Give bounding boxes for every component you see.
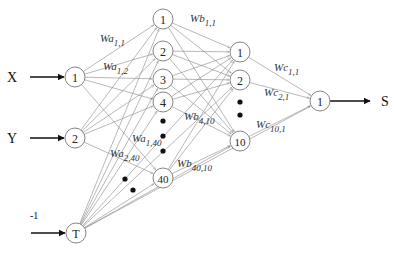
weight-label: Wa1,1 — [100, 32, 125, 48]
svg-text:1: 1 — [317, 95, 323, 109]
svg-text:1: 1 — [160, 13, 166, 27]
weight-edge — [171, 58, 230, 97]
weight-edge — [172, 23, 230, 48]
hidden-a-node: 1 — [153, 9, 173, 29]
output-signal-label: S — [381, 94, 389, 109]
weight-label: Wc2,1 — [264, 86, 289, 102]
weight-edge — [173, 79, 229, 80]
weight-label: Wa2,40 — [110, 147, 140, 163]
weight-label: Wb1,1 — [190, 12, 216, 28]
input-node: 2 — [65, 128, 85, 148]
weight-edge — [84, 184, 153, 228]
neural-network-diagram: XY-1S 12T12344012101 Wa1,1Wa1,2Wb1,1Wc1,… — [0, 0, 394, 259]
input-arrows: XY-1S — [7, 70, 389, 234]
hidden-b-node: 1 — [230, 42, 250, 62]
input-signal-label: X — [7, 70, 17, 85]
weight-edge — [85, 80, 153, 99]
input-signal-label: Y — [7, 131, 17, 146]
weight-edge — [85, 77, 152, 79]
weight-edge — [171, 25, 232, 73]
svg-text:3: 3 — [160, 73, 166, 87]
hidden-b-node: 10 — [230, 131, 250, 151]
svg-text:40: 40 — [158, 173, 170, 185]
hidden-a-node: 3 — [153, 69, 173, 89]
svg-text:1: 1 — [237, 46, 243, 60]
hidden-b-node: 2 — [230, 70, 250, 90]
hidden-a-node: 2 — [153, 41, 173, 61]
weight-edge — [171, 85, 232, 134]
bias-value-label: -1 — [30, 210, 38, 221]
weight-edge — [84, 106, 153, 134]
svg-text:2: 2 — [160, 45, 166, 59]
svg-text:10: 10 — [235, 136, 247, 148]
bias-node: T — [66, 223, 86, 243]
svg-text:2: 2 — [237, 74, 243, 88]
weight-label: Wc1,1 — [274, 61, 299, 77]
hidden-a-node: 40 — [153, 168, 173, 188]
svg-text:T: T — [72, 227, 80, 241]
svg-text:1: 1 — [72, 71, 78, 85]
svg-text:2: 2 — [72, 132, 78, 146]
input-node: 1 — [65, 67, 85, 87]
weight-label: Wb4,10 — [184, 110, 215, 126]
weight-edge — [83, 25, 153, 71]
weight-label: Wa1,40 — [132, 132, 162, 148]
weight-edge — [173, 83, 230, 99]
output-node: 1 — [310, 91, 330, 111]
hidden-a-node: 4 — [153, 92, 173, 112]
weight-edge — [173, 51, 229, 52]
svg-text:4: 4 — [160, 96, 166, 110]
